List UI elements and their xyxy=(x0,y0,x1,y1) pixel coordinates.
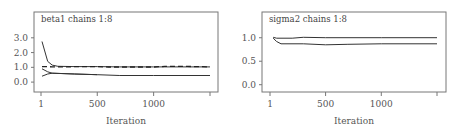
chart-title: beta1 chains 1:8 xyxy=(41,14,112,24)
x-tick-label: 1000 xyxy=(142,99,165,109)
trace-plots: beta1 chains 1:80.01.02.03.015001000Iter… xyxy=(0,0,457,132)
plot-frame xyxy=(34,12,218,92)
y-tick-label: 1.0 xyxy=(14,62,29,72)
x-tick-label: 1 xyxy=(38,99,44,109)
x-tick-label: 1 xyxy=(267,99,273,109)
y-tick-label: 2.0 xyxy=(14,48,29,58)
x-tick-label: 500 xyxy=(317,99,334,109)
y-tick-label: 1.0 xyxy=(242,33,257,43)
series-lower xyxy=(273,38,437,45)
x-tick-label: 500 xyxy=(89,99,106,109)
series-upper xyxy=(273,37,437,38)
x-axis-label: Iteration xyxy=(334,116,374,126)
y-tick-label: 3.0 xyxy=(14,33,29,43)
chart-panel-1: beta1 chains 1:80.01.02.03.015001000Iter… xyxy=(14,12,218,126)
plot-frame xyxy=(262,12,446,92)
y-tick-label: 0.0 xyxy=(14,77,29,87)
x-axis-label: Iteration xyxy=(106,116,146,126)
chart-title: sigma2 chains 1:8 xyxy=(269,14,347,24)
y-tick-label: 0.0 xyxy=(242,80,257,90)
x-tick-label: 1000 xyxy=(370,99,393,109)
series-upper xyxy=(42,42,210,67)
y-tick-label: 0.5 xyxy=(242,56,257,66)
chart-panel-2: sigma2 chains 1:80.00.51.015001000Iterat… xyxy=(242,12,446,126)
